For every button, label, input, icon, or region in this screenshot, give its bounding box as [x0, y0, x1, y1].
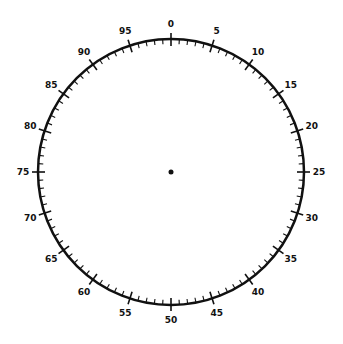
- scale-label: 20: [305, 121, 318, 131]
- minor-tick: [270, 254, 274, 257]
- minor-tick: [240, 60, 243, 64]
- scale-label: 95: [119, 26, 132, 36]
- minor-tick: [154, 40, 155, 45]
- minor-tick: [279, 101, 283, 104]
- scale-label: 85: [45, 80, 58, 90]
- scale-label: 35: [284, 254, 297, 264]
- minor-tick: [298, 155, 303, 156]
- minor-tick: [240, 280, 243, 284]
- minor-tick: [86, 271, 89, 275]
- minor-tick: [74, 260, 78, 263]
- scale-label: 75: [17, 167, 30, 177]
- minor-tick: [259, 265, 262, 269]
- scale-label: 30: [305, 213, 318, 223]
- minor-tick: [100, 280, 103, 284]
- minor-tick: [59, 101, 63, 104]
- minor-tick: [39, 188, 44, 189]
- minor-tick: [80, 75, 83, 79]
- minor-tick: [59, 241, 63, 244]
- scale-label: 25: [313, 167, 326, 177]
- minor-tick: [74, 81, 78, 84]
- scale-label: 40: [252, 287, 265, 297]
- minor-tick: [86, 70, 89, 74]
- minor-tick: [39, 155, 44, 156]
- minor-tick: [264, 260, 268, 263]
- center-dot: [169, 170, 174, 175]
- circular-dial: 05101520253035404550556065707580859095: [0, 0, 343, 344]
- minor-tick: [264, 81, 268, 84]
- minor-tick: [279, 241, 283, 244]
- minor-tick: [154, 299, 155, 304]
- scale-label: 65: [45, 254, 58, 264]
- minor-tick: [270, 87, 274, 90]
- scale-label: 15: [284, 80, 297, 90]
- scale-label: 90: [78, 47, 91, 57]
- scale-label: 70: [24, 213, 37, 223]
- minor-tick: [100, 60, 103, 64]
- scale-label: 55: [119, 308, 132, 318]
- scale-label: 10: [252, 47, 265, 57]
- minor-tick: [80, 265, 83, 269]
- minor-tick: [253, 271, 256, 275]
- scale-label: 80: [24, 121, 37, 131]
- minor-tick: [69, 87, 73, 90]
- scale-label: 50: [165, 315, 178, 325]
- minor-tick: [259, 75, 262, 79]
- scale-label: 60: [78, 287, 91, 297]
- scale-label: 5: [214, 26, 220, 36]
- scale-label: 0: [168, 19, 174, 29]
- scale-label: 45: [210, 308, 223, 318]
- minor-tick: [69, 254, 73, 257]
- minor-tick: [187, 299, 188, 304]
- minor-tick: [253, 70, 256, 74]
- minor-tick: [187, 40, 188, 45]
- minor-tick: [298, 188, 303, 189]
